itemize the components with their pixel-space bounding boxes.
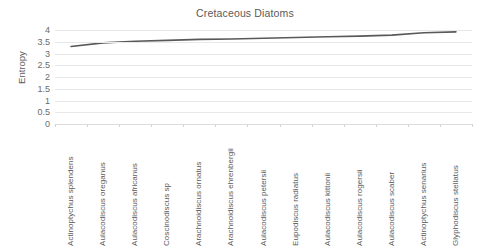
x-axis-tick [247, 124, 248, 127]
y-axis-tick-label: 1.5 [10, 84, 50, 93]
gridline [55, 112, 472, 113]
x-axis-category-label-text: Aulacodiscus petersii [258, 170, 267, 246]
y-axis-tick-label: 3.5 [10, 37, 50, 46]
x-axis-category-label-text: Eupodiscus radiatus [290, 173, 299, 246]
x-axis-category-label-text: Arachnoidiscus ehrenbergii [226, 148, 235, 246]
x-axis-category-labels: Actinoptychus splendensAulacodiscus oreg… [55, 128, 472, 248]
x-axis-tick [215, 124, 216, 127]
x-axis-tick [87, 124, 88, 127]
x-axis-category-label: Coscinodiscus sp [160, 128, 174, 246]
gridline [55, 101, 472, 102]
gridline [55, 54, 472, 55]
x-axis-category-label: Arachnoidiscus ornatus [192, 128, 206, 246]
x-axis-category-label: Aulacodiscus scaber [385, 128, 399, 246]
x-axis-tick [119, 124, 120, 127]
x-axis-tick [472, 124, 473, 127]
x-axis-category-label: Aulacodiscus oreganus [96, 128, 110, 246]
x-axis-category-label-text: Actinoptychus splendens [66, 156, 75, 246]
gridline [55, 77, 472, 78]
x-axis-tick [55, 124, 56, 127]
x-axis-tick [151, 124, 152, 127]
gridline [55, 89, 472, 90]
x-axis-category-label: Aulacodiscus africanus [128, 128, 142, 246]
x-axis-category-label-text: Aulacodiscus kittonii [322, 173, 331, 246]
x-axis-category-label: Actinoptychus splendens [64, 128, 78, 246]
y-axis-tick-label: 2.5 [10, 61, 50, 70]
series-polyline [71, 32, 456, 47]
x-axis-tick [344, 124, 345, 127]
x-axis-tick [376, 124, 377, 127]
x-axis-category-label: Arachnoidiscus ehrenbergii [224, 128, 238, 246]
x-axis-category-label-text: Coscinodiscus sp [162, 183, 171, 246]
x-axis-category-label-text: Arachnoidiscus ornatus [194, 162, 203, 246]
x-axis-category-label: Aulacodiscus rogersii [353, 128, 367, 246]
plot-area [55, 30, 472, 124]
x-axis-category-label: Glyphodiscus stellatus [449, 128, 463, 246]
x-axis-category-label-text: Aulacodiscus rogersii [354, 169, 363, 246]
gridline [55, 30, 472, 31]
gridline [55, 42, 472, 43]
x-axis-category-label: Aulacodiscus kittonii [321, 128, 335, 246]
y-axis-tick-label: 0.5 [10, 108, 50, 117]
gridline [55, 65, 472, 66]
y-axis-tick-label: 3 [10, 49, 50, 58]
x-axis-category-label-text: Actinoptychus senarius [418, 163, 427, 246]
x-axis-category-label-text: Aulacodiscus oreganus [98, 162, 107, 246]
x-axis-category-label: Actinoptychus senarius [417, 128, 431, 246]
x-axis-category-label-text: Aulacodiscus africanus [130, 163, 139, 246]
x-axis-tick [440, 124, 441, 127]
x-axis-tick [183, 124, 184, 127]
x-axis-category-label: Aulacodiscus petersii [257, 128, 271, 246]
x-axis-category-label-text: Glyphodiscus stellatus [450, 165, 459, 246]
x-axis-tick [280, 124, 281, 127]
x-axis-tick [312, 124, 313, 127]
chart-container: Cretaceous Diatoms Entropy 00.511.522.53… [0, 0, 490, 251]
chart-title: Cretaceous Diatoms [0, 7, 490, 19]
y-axis-tick-label: 2 [10, 73, 50, 82]
y-axis-tick-label: 1 [10, 96, 50, 105]
x-axis-tick [408, 124, 409, 127]
y-axis-tick-label: 0 [10, 120, 50, 129]
y-axis-tick-label: 4 [10, 26, 50, 35]
x-axis-category-label: Eupodiscus radiatus [289, 128, 303, 246]
x-axis-category-label-text: Aulacodiscus scaber [386, 172, 395, 246]
